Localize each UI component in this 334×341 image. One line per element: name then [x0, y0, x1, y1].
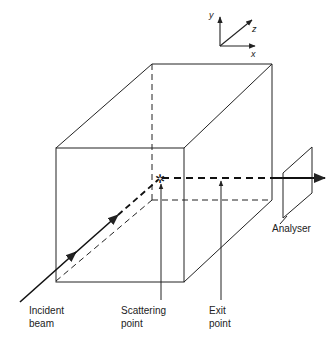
exit-point-label: Exit point	[209, 304, 231, 330]
scattering-point-star-icon: ✲	[155, 172, 165, 186]
z-axis-arrow	[220, 20, 252, 46]
scattering-point-label: Scattering point	[121, 304, 166, 330]
incident-beam	[20, 180, 158, 302]
analyser-plate	[283, 147, 312, 218]
x-axis-label: x	[251, 49, 256, 59]
box-front-face	[56, 148, 184, 282]
z-axis-label: z	[252, 24, 257, 34]
analyser-label: Analyser	[272, 222, 311, 235]
y-axis-label: y	[209, 10, 214, 20]
incident-beam-label: Incident beam	[29, 304, 64, 330]
scattering-geometry-diagram: ✲	[0, 0, 334, 341]
coordinate-axes	[220, 17, 255, 46]
